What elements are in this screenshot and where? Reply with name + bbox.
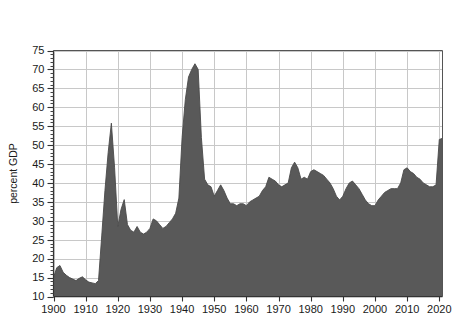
chart-plot: 1015202530354045505560657075190019101920… <box>0 0 457 326</box>
y-axis-tick-label: 30 <box>32 215 44 227</box>
y-axis-tick-label: 25 <box>32 234 44 246</box>
y-axis-tick-label: 50 <box>32 139 44 151</box>
y-axis-title-layer: percent GDP <box>7 143 19 204</box>
x-axis-tick-label: 1910 <box>73 303 97 315</box>
x-axis-tick-label: 1980 <box>298 303 322 315</box>
y-axis-tick-label: 55 <box>32 120 44 132</box>
y-axis-tick-label: 65 <box>32 82 44 94</box>
y-axis-tick-label: 40 <box>32 177 44 189</box>
y-axis-tick-label: 45 <box>32 158 44 170</box>
y-axis-tick-label: 75 <box>32 44 44 56</box>
y-axis-tick-label: 70 <box>32 63 44 75</box>
x-axis-tick-label: 1930 <box>138 303 162 315</box>
x-axis-tick-label: 1950 <box>202 303 226 315</box>
x-axis-tick-label: 1990 <box>331 303 355 315</box>
x-axis-tick-label: 1960 <box>234 303 258 315</box>
y-axis-tick-label: 35 <box>32 196 44 208</box>
x-axis-tick-label: 1940 <box>170 303 194 315</box>
y-axis-tick-label: 10 <box>32 290 44 302</box>
x-axis-tick-label: 2000 <box>363 303 387 315</box>
y-axis-tick-label: 20 <box>32 252 44 264</box>
x-axis-tick-label: 2020 <box>427 303 451 315</box>
x-axis-tick-label: 1970 <box>266 303 290 315</box>
x-axis-tick-label: 1900 <box>41 303 65 315</box>
y-axis-tick-label: 60 <box>32 101 44 113</box>
y-axis-title: percent GDP <box>7 143 19 204</box>
y-axis-tick-label: 15 <box>32 271 44 283</box>
x-axis-tick-label: 2010 <box>395 303 419 315</box>
chart-root: Total Spending United Kingdom from FY 19… <box>0 0 457 326</box>
x-axis-tick-label: 1920 <box>106 303 130 315</box>
